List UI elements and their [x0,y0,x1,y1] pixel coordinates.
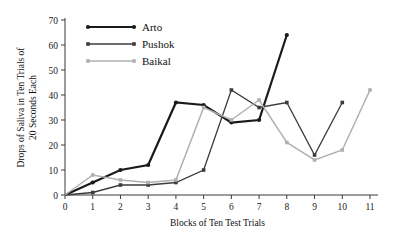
y-tick-label: 30 [49,116,59,126]
x-tick-label: 9 [312,202,317,212]
legend-marker-pushok [132,42,136,46]
series-line-baikal [65,90,370,195]
legend-marker-baikal [86,59,90,63]
legend-marker-arto [132,25,136,29]
chart-container: 01020304050607001234567891011Blocks of T… [0,0,399,236]
legend-marker-arto [86,25,90,29]
data-point-baikal [174,178,178,182]
x-tick-label: 10 [338,202,348,212]
y-tick-label: 70 [49,16,59,26]
y-tick-label: 10 [49,166,59,176]
data-point-baikal [285,141,289,145]
legend-marker-baikal [132,59,136,63]
legend-label-arto: Arto [142,21,163,33]
data-point-pushok [313,153,317,157]
y-tick-label: 40 [49,91,59,101]
x-axis-title: Blocks of Ten Test Trials [170,218,265,228]
x-tick-label: 4 [174,202,179,212]
x-tick-label: 0 [63,202,68,212]
x-tick-label: 1 [90,202,95,212]
x-tick-label: 3 [146,202,151,212]
data-point-baikal [340,148,344,152]
data-point-arto [174,100,178,104]
x-tick-label: 2 [118,202,123,212]
x-tick-label: 11 [365,202,374,212]
x-tick-label: 6 [229,202,234,212]
x-tick-label: 5 [201,202,206,212]
data-point-baikal [230,118,234,122]
data-point-pushok [230,88,234,92]
y-tick-label: 50 [49,66,59,76]
series-line-arto [65,35,287,195]
data-point-baikal [368,88,372,92]
data-point-arto [257,118,261,122]
y-tick-label: 0 [53,191,58,201]
y-axis-title-line2: 20 Seconds Each [28,75,38,140]
y-tick-label: 60 [49,41,59,51]
data-point-baikal [119,178,123,182]
x-tick-label: 7 [257,202,262,212]
y-axis-title-line1: Drops of Saliva in Ten Trials of [16,47,26,168]
data-point-pushok [257,106,261,110]
data-point-arto [285,33,289,37]
data-point-arto [91,180,95,184]
data-point-pushok [202,168,206,172]
data-point-pushok [91,191,95,195]
legend-label-baikal: Baikal [142,55,171,67]
data-point-pushok [340,101,344,105]
y-tick-label: 20 [49,141,59,151]
data-point-baikal [313,158,317,162]
x-tick-label: 8 [284,202,289,212]
data-point-baikal [91,173,95,177]
data-point-arto [146,163,150,167]
data-point-pushok [285,101,289,105]
data-point-baikal [146,181,150,185]
data-point-baikal [202,106,206,110]
legend-marker-pushok [86,42,90,46]
data-point-arto [118,168,122,172]
data-point-pushok [119,183,123,187]
line-chart: 01020304050607001234567891011Blocks of T… [0,0,399,236]
data-point-baikal [257,98,261,102]
legend-label-pushok: Pushok [142,38,175,50]
